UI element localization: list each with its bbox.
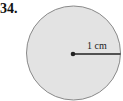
center-point <box>71 52 76 57</box>
radius-label: 1 cm <box>87 40 107 51</box>
circle-figure: 1 cm <box>0 0 123 101</box>
